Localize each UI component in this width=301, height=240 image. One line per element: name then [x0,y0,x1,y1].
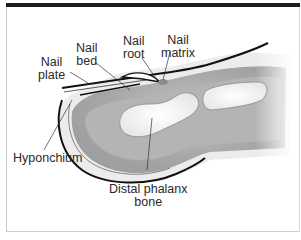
label-nail-root: Nail root [123,35,145,61]
label-hyponchium: Hyponchium [13,152,82,165]
label-nail-plate: Nail plate [38,56,65,82]
label-nail-bed: Nail bed [76,42,98,68]
label-nail-matrix: Nail matrix [161,34,195,60]
label-distal-phalanx: Distal phalanx bone [109,183,188,209]
edge-fade [255,50,295,165]
